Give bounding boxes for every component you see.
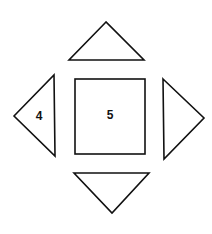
left-triangle-label: 4 [36, 109, 43, 123]
center-square-label: 5 [107, 108, 114, 122]
bottom-triangle [74, 173, 149, 213]
shape-diagram: 4 5 [0, 0, 212, 234]
top-triangle [69, 22, 144, 60]
left-triangle [14, 75, 55, 156]
right-triangle [163, 79, 204, 159]
